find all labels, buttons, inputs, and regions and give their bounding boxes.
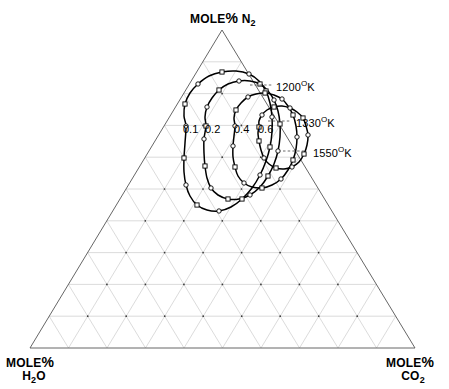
axis-label-h2o: MOLE% H2O [6, 356, 54, 387]
contour-value-label-1: 0.2 [205, 123, 220, 135]
data-point-circle [276, 149, 280, 153]
data-point-circle [247, 72, 251, 76]
axis-label-h2o-mole: MOLE [6, 356, 41, 370]
data-point-square [240, 197, 244, 201]
axis-label-n2: MOLE% N2 [190, 12, 256, 30]
data-point-circle [295, 135, 299, 139]
data-point-circle [202, 137, 206, 141]
axis-label-h2o-percent: % [41, 354, 54, 370]
axis-label-co2-mole: MOLE [386, 356, 421, 370]
data-point-square [195, 203, 199, 207]
data-point-square [257, 139, 261, 143]
data-point-square [203, 164, 207, 168]
temperature-label-1550: 1550OK [313, 145, 352, 159]
axis-label-co2-percent: % [421, 354, 434, 370]
data-point-circle [184, 183, 188, 187]
data-point-circle [231, 144, 235, 148]
axis-label-n2-subscript: 2 [251, 18, 256, 28]
data-point-square [233, 165, 237, 169]
data-point-square [274, 166, 278, 170]
data-point-square [220, 70, 224, 74]
data-point-circle [248, 193, 252, 197]
data-point-circle [280, 97, 284, 101]
data-point-circle [217, 209, 221, 213]
data-point-circle [288, 106, 292, 110]
data-point-square [278, 122, 282, 126]
axis-label-n2-species: N [242, 12, 251, 26]
axis-label-co2-subscript: 2 [420, 375, 425, 385]
data-point-square [291, 158, 295, 162]
axis-label-h2o-species-tail: O [36, 369, 46, 383]
figure-background [0, 0, 449, 389]
data-point-circle [196, 82, 200, 86]
axis-label-n2-mole: MOLE [190, 12, 225, 26]
axis-label-h2o-species: H [22, 369, 31, 383]
data-point-circle [290, 165, 294, 169]
axis-label-n2-percent: % [225, 10, 238, 26]
data-point-circle [246, 95, 250, 99]
temperature-label-1330: 1330OK [296, 115, 335, 129]
data-point-circle [258, 173, 262, 177]
data-point-square [268, 145, 272, 149]
data-point-circle [242, 181, 246, 185]
data-point-circle [279, 177, 283, 181]
data-point-square [263, 91, 267, 95]
data-point-circle [237, 79, 241, 83]
contour-value-label-3: 0.6 [258, 123, 273, 135]
data-point-circle [205, 105, 209, 109]
data-point-square [266, 174, 270, 178]
axis-label-co2: MOLE% CO2 [386, 356, 434, 387]
data-point-square [260, 186, 264, 190]
temperature-label-1200: 1200OK [276, 79, 315, 93]
data-point-circle [260, 113, 264, 117]
data-point-square [272, 105, 276, 109]
data-point-square [182, 156, 186, 160]
contour-value-label-2: 0.4 [234, 123, 249, 135]
data-point-circle [262, 156, 266, 160]
axis-label-co2-species: CO [401, 369, 419, 383]
data-point-square [302, 152, 306, 156]
data-point-square [291, 113, 295, 117]
data-point-circle [270, 115, 274, 119]
contour-value-label-0: 0.1 [183, 123, 198, 135]
data-point-circle [209, 186, 213, 190]
data-point-square [234, 108, 238, 112]
data-point-circle [272, 98, 276, 102]
data-point-square [226, 197, 230, 201]
data-point-square [258, 82, 262, 86]
data-point-square [217, 88, 221, 92]
ternary-phase-diagram [0, 0, 449, 389]
data-point-square [183, 102, 187, 106]
data-point-circle [306, 133, 310, 137]
